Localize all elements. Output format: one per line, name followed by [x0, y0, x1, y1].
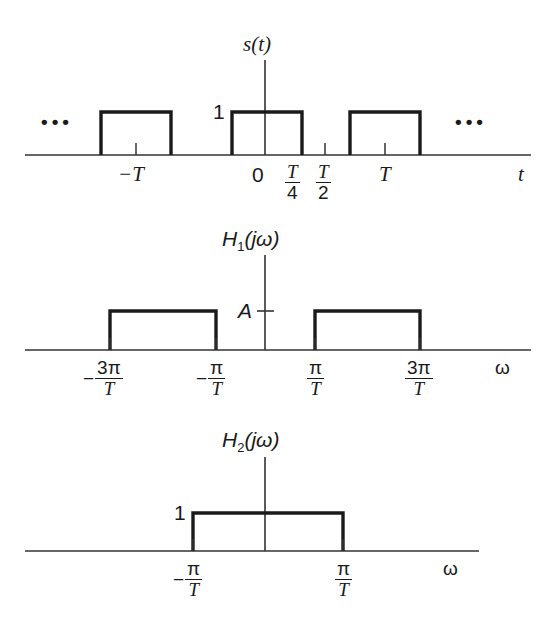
plot1-xtick-minus-T: −T	[118, 164, 144, 185]
plot2-xtick1-numerator: 3π	[95, 358, 123, 378]
plot2-band-negative	[110, 311, 216, 350]
plot1-axis-label: t	[518, 164, 524, 185]
plot3-axis-label: ω	[443, 559, 458, 578]
plot3-group	[25, 457, 479, 551]
plot3-xtick1-denominator: T	[185, 579, 202, 600]
plot3-xtick2-denominator: T	[335, 579, 352, 600]
plot2-group	[25, 255, 531, 350]
plot2-xtick3-numerator: π	[307, 358, 324, 378]
plot2-xtick4-denominator: T	[405, 378, 433, 399]
plot3-title-symbol: H	[222, 428, 237, 451]
plot1-xtick-T: T	[379, 164, 391, 185]
plot1-title: s(t)	[243, 33, 271, 55]
plot3-xtick1-sign: −	[173, 570, 184, 589]
plot3-xtick1-numerator: π	[185, 559, 202, 579]
plot1-title-arg: (t)	[251, 32, 271, 56]
plot2-xtick2-sign: −	[196, 369, 207, 388]
plot1-ellipsis-right: •••	[455, 112, 487, 131]
plot2-xtick-pi-T: π T	[307, 358, 324, 399]
plot2-title-symbol: H	[222, 227, 237, 250]
plot1-xtick-T-over-4-numerator: T	[285, 162, 300, 182]
plot2-xtick2-denominator: T	[208, 378, 225, 399]
plot1-xtick-T-over-4: T 4	[285, 162, 300, 203]
plot2-band-positive	[315, 311, 420, 350]
plot2-xtick2-numerator: π	[208, 358, 225, 378]
plot2-title: H1(jω)	[222, 228, 279, 253]
plot3-xtick-minus-pi-T: − π T	[173, 559, 202, 600]
plot1-title-symbol: s	[243, 32, 251, 56]
plot3-amplitude-label: 1	[174, 502, 186, 523]
plot3-xtick2-numerator: π	[335, 559, 352, 579]
plot3-band	[193, 513, 343, 551]
plot2-title-arg: (jω)	[244, 227, 279, 250]
plot2-xtick-minus-pi-T: − π T	[196, 358, 225, 399]
plot1-xtick-T-over-2-numerator: T	[316, 162, 331, 182]
plot1-group	[25, 60, 531, 155]
plot1-xtick-T-over-2: T 2	[316, 162, 331, 203]
figure-container: s(t) 1 ••• ••• −T 0 T 4 T 2 T t H1(jω) A…	[0, 0, 552, 643]
plot2-xtick3-denominator: T	[307, 378, 324, 399]
plot2-xtick4-numerator: 3π	[405, 358, 433, 378]
plot2-amplitude-label: A	[238, 300, 252, 321]
figure-svg	[0, 0, 552, 643]
plot1-xtick-T-over-4-denominator: 4	[285, 182, 300, 203]
plot2-xtick-3pi-T: 3π T	[405, 358, 433, 399]
plot2-xtick-minus-3pi-T: − 3π T	[83, 358, 123, 399]
plot2-xtick1-sign: −	[83, 369, 94, 388]
plot3-xtick-pi-T: π T	[335, 559, 352, 600]
plot1-xtick-zero: 0	[252, 164, 264, 185]
plot1-pulse-zero	[232, 112, 302, 155]
plot1-xtick-T-over-2-denominator: 2	[316, 182, 331, 203]
plot2-xtick1-denominator: T	[95, 378, 123, 399]
plot1-amplitude-label: 1	[213, 101, 225, 122]
plot3-title: H2(jω)	[222, 429, 279, 454]
plot3-title-arg: (jω)	[244, 428, 279, 451]
plot1-ellipsis-left: •••	[41, 112, 73, 131]
plot2-axis-label: ω	[495, 358, 510, 377]
